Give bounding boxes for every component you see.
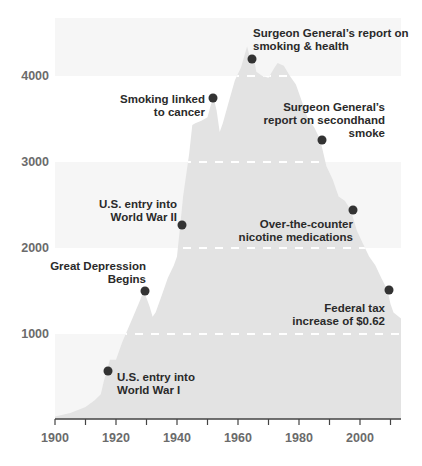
x-axis: 1900 1920 1940 1960 1980 2000: [41, 419, 401, 445]
annotation-sg1964-line2: smoking & health: [253, 40, 349, 52]
marker-smoking-cancer: [209, 94, 218, 103]
marker-great-depression: [141, 287, 150, 296]
x-tick-label-1980: 1980: [285, 431, 313, 445]
x-tick-label-1920: 1920: [102, 431, 130, 445]
y-axis: 4000 3000 2000 1000: [21, 69, 49, 341]
annotation-tax-line2: increase of $0.62: [292, 315, 385, 327]
annotation-cancer-line2: to cancer: [154, 106, 206, 118]
annotation-tax-line1: Federal tax: [324, 302, 385, 314]
x-tick-label-1940: 1940: [163, 431, 191, 445]
y-tick-label-1000: 1000: [21, 327, 49, 341]
x-tick-label-2000: 2000: [346, 431, 374, 445]
annotation-depression-line1: Great Depression: [50, 260, 146, 272]
annotation-cancer-line1: Smoking linked: [120, 93, 205, 105]
marker-secondhand-smoke: [318, 136, 327, 145]
marker-otc-nicotine: [349, 206, 358, 215]
y-tick-label-4000: 4000: [21, 69, 49, 83]
marker-ww1: [104, 367, 113, 376]
annotation-ww1-line1: U.S. entry into: [117, 371, 195, 383]
annotation-depression-line2: Begins: [108, 273, 146, 285]
marker-ww2: [178, 221, 187, 230]
annotation-sg1964-line1: Surgeon General’s report on: [253, 27, 409, 39]
annotation-ww1-line2: World War I: [117, 384, 180, 396]
annotation-secondhand-line1: Surgeon General’s: [283, 101, 385, 113]
y-tick-label-2000: 2000: [21, 241, 49, 255]
marker-federal-tax: [385, 286, 394, 295]
annotation-secondhand-line2: report on secondhand: [264, 114, 385, 126]
area-chart: 4000 3000 2000 1000 1900 1920 1940 1960 …: [0, 0, 422, 466]
annotation-otc-line2: nicotine medications: [239, 231, 353, 243]
x-tick-label-1900: 1900: [41, 431, 69, 445]
x-tick-label-1960: 1960: [224, 431, 252, 445]
annotation-secondhand-line3: smoke: [349, 127, 385, 139]
annotation-ww2-line2: World War II: [111, 211, 177, 223]
annotation-otc-line1: Over-the-counter: [260, 218, 354, 230]
marker-surgeon-general-1964: [248, 55, 257, 64]
annotation-ww2-line1: U.S. entry into: [99, 198, 177, 210]
y-tick-label-3000: 3000: [21, 155, 49, 169]
